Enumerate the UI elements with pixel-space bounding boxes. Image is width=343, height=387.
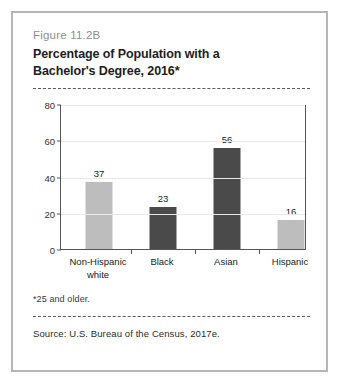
y-axis-tick-label: 20 — [44, 208, 55, 219]
plot-area: 37235616 020406080 — [60, 105, 306, 250]
figure-title-line2: Bachelor's Degree, 2016* — [33, 64, 180, 78]
title-divider — [33, 88, 310, 89]
bar — [278, 220, 305, 249]
y-axis-tick — [57, 213, 61, 214]
x-axis-category-label: Hispanic — [254, 256, 326, 269]
gridline — [61, 214, 305, 215]
y-axis-tick — [57, 105, 61, 106]
y-axis-tick-label: 0 — [50, 245, 55, 256]
page-title: Percentage of Population with a Bachelor… — [33, 46, 310, 79]
y-axis-tick — [57, 250, 61, 251]
x-axis-category-label: Non-Hispanicwhite — [62, 256, 134, 281]
y-axis-tick-label: 60 — [44, 136, 55, 147]
gridline — [61, 141, 305, 142]
x-axis-tick — [195, 249, 196, 254]
gridline — [61, 178, 305, 179]
bar-value-label: 23 — [158, 193, 169, 204]
x-axis-tick — [131, 249, 132, 254]
x-axis-labels: Non-HispanicwhiteBlackAsianHispanic — [60, 256, 306, 290]
y-axis-tick — [57, 141, 61, 142]
gridline — [61, 105, 305, 106]
bar-chart: 37235616 020406080 Non-HispanicwhiteBlac… — [33, 99, 310, 291]
y-axis-tick-label: 80 — [44, 100, 55, 111]
figure-title-line1: Percentage of Population with a — [33, 47, 220, 61]
source-text: Source: U.S. Bureau of the Census, 2017e… — [33, 328, 310, 339]
figure-card: Figure 11.2B Percentage of Population wi… — [11, 11, 328, 372]
x-axis-category-label: Black — [126, 256, 198, 269]
x-axis-category-label: Asian — [190, 256, 262, 269]
x-axis-tick — [259, 249, 260, 254]
bar-value-label: 16 — [286, 206, 297, 217]
y-axis-tick — [57, 177, 61, 178]
bar — [86, 182, 113, 249]
footnote: *25 and older. — [33, 294, 310, 304]
y-axis-tick-label: 40 — [44, 172, 55, 183]
source-divider — [33, 316, 310, 317]
figure-content: Figure 11.2B Percentage of Population wi… — [33, 27, 310, 339]
bar — [214, 148, 241, 250]
figure-number: Figure 11.2B — [33, 27, 310, 43]
bar-value-label: 56 — [222, 134, 233, 145]
